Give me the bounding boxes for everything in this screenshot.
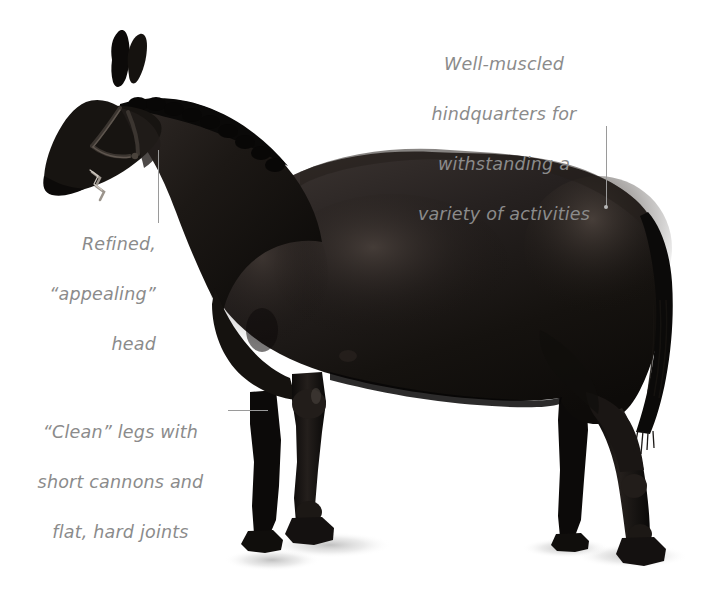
- annotation-legs-line-2: short cannons and: [18, 470, 223, 495]
- leader-line-hindquarters: [606, 126, 607, 208]
- horse-conformation-figure: Well-muscled hindquarters for withstandi…: [0, 0, 704, 592]
- annotation-hindquarters-line-1: Well-muscled: [404, 52, 604, 77]
- halter-ring: [132, 153, 138, 159]
- annotation-hindquarters-line-2: hindquarters for: [404, 102, 604, 127]
- annotation-head-line-2: “appealing”: [20, 282, 156, 307]
- annotation-legs-line-1: “Clean” legs with: [18, 420, 223, 445]
- annotation-legs: “Clean” legs with short cannons and flat…: [18, 395, 223, 570]
- annotation-head-line-3: head: [20, 332, 156, 357]
- annotation-head: Refined, “appealing” head: [20, 207, 156, 382]
- annotation-hindquarters-line-3: withstanding a: [404, 152, 604, 177]
- annotation-hindquarters-line-4: variety of activities: [404, 202, 604, 227]
- annotation-hindquarters: Well-muscled hindquarters for withstandi…: [404, 27, 604, 252]
- leader-line-head: [158, 150, 159, 223]
- leader-line-legs: [228, 410, 268, 411]
- annotation-head-line-1: Refined,: [20, 232, 156, 257]
- leader-endpoint-dot-hindquarters: [604, 205, 608, 209]
- annotation-legs-line-3: flat, hard joints: [18, 520, 223, 545]
